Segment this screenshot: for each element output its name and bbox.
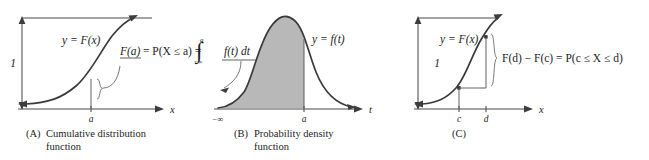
panel-a-caption-label: (A) [26,128,41,140]
panel-c-x-axis-label: x [538,104,544,115]
panel-a-cdf-curve [26,18,133,104]
panel-c-x-tick-label-1: c [457,114,462,124]
panel-c-x-tick-label-2: d [484,114,489,124]
panel-c-unit-arrow-up [415,16,422,24]
panel-c-curve-label: y = F(x) [439,33,479,46]
panel-a-formula-fa: F(a) [119,45,141,58]
panel-c-x-axis-arrow [524,106,533,113]
panel-a-leader-to-formula [103,66,120,88]
panel-a-x-axis-label: x [169,104,175,115]
panel-a-x-tick-label: a [89,114,94,124]
panel-a-y-axis-value: 1 [10,57,16,69]
panel-c-formula: F(d) − F(c) = P(c ≤ X ≤ d) [502,52,623,65]
panel-a-integral-lower-limit: −∞ [194,58,203,65]
panel-a-curve-label: y = F(x) [61,34,101,47]
panel-a-integral-upper-limit: a [200,36,204,44]
panel-b-caption-label: (B) [234,128,249,140]
panel-b-shaded-area [218,16,304,108]
panel-b-left-limit-label: −∞ [213,114,224,124]
statistics-figure: 1 x y = F(x) a F(a) = P(X ≤ a) = ∫ a −∞ … [0,0,649,160]
panel-c-interval-probability: 1 x y = F(x) c d F(d) − F(c) = P(c ≤ X ≤… [404,0,649,160]
panel-a-integrand: f(t) dt [224,45,251,58]
panel-b-leader-arrow [220,88,229,94]
panel-a-cumulative-distribution: 1 x y = F(x) a F(a) = P(X ≤ a) = ∫ a −∞ … [0,0,212,160]
panel-b-curve-label: y = f(t) [311,33,345,46]
panel-a-unit-arrow-up [19,16,26,24]
panel-b-t-axis-arrow [354,106,363,113]
panel-b-leader-to-area [224,61,241,88]
panel-b-t-tick-label: a [302,114,307,124]
panel-a-caption-line1: Cumulative distribution [46,128,147,139]
panel-a-x-axis-arrow [155,106,164,113]
panel-b-probability-density: f(t) dt t a −∞ y = f(t) (B) Probability … [212,0,404,160]
panel-c-y-axis-value: 1 [434,57,440,69]
panel-c-brace-interval [491,34,497,86]
panel-b-caption-line1: Probability density [254,128,334,139]
panel-a-caption-line2: function [46,141,82,152]
panel-a-formula-probability: = P(X ≤ a) = [143,45,201,58]
panel-b-caption-line2: function [254,141,290,152]
panel-b-t-axis-label: t [369,104,373,115]
panel-c-caption-label: (C) [452,128,467,140]
panel-a-brace-fa [97,79,103,99]
